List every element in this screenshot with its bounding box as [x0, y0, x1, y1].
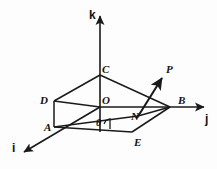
edge-c-b [100, 75, 170, 107]
angle-label-theta: θ [96, 118, 101, 128]
edge-d-o [54, 101, 100, 107]
diagram-canvas [0, 0, 217, 169]
vertex-label-a: A [44, 122, 51, 133]
vertex-label-n: N [131, 111, 139, 122]
vertex-label-d: D [40, 95, 48, 106]
vertex-label-c: C [102, 64, 109, 75]
axis-label-i: i [12, 142, 15, 154]
vertex-label-o: O [102, 95, 110, 106]
vertex-label-p: P [166, 64, 173, 75]
axis-label-k: k [89, 9, 96, 21]
edge-a-e [54, 127, 132, 132]
vertex-label-b: B [178, 95, 185, 106]
edge-d-c [54, 75, 100, 101]
vertex-label-e: E [134, 137, 141, 148]
vector-diagram-figure: k j i C P D O B N A E θ [0, 0, 217, 169]
axis-label-j: j [205, 113, 208, 125]
